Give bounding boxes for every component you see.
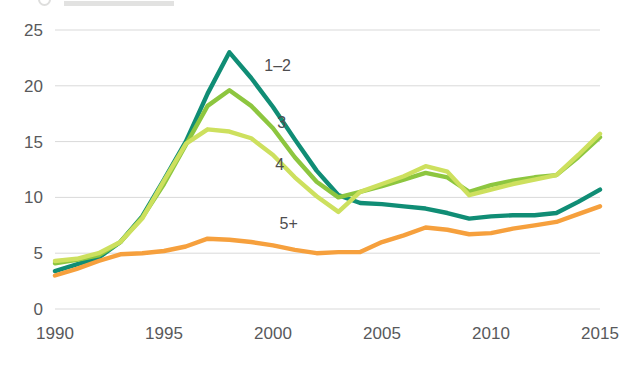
- chart-canvas: 0510152025 199019952000200520102015 1–23…: [0, 0, 623, 379]
- x-axis-tick-label: 2010: [472, 324, 510, 343]
- y-axis-tick-label: 25: [24, 21, 43, 40]
- x-axis-tick-label: 2005: [363, 324, 401, 343]
- x-axis-tick-label: 1995: [145, 324, 183, 343]
- x-axis-labels-group: 199019952000200520102015: [36, 324, 619, 343]
- y-axis-tick-label: 15: [24, 133, 43, 152]
- line-chart: 0510152025 199019952000200520102015 1–23…: [0, 0, 623, 379]
- x-axis-tick-label: 2015: [581, 324, 619, 343]
- y-axis-tick-label: 0: [34, 300, 43, 319]
- y-axis-tick-label: 20: [24, 77, 43, 96]
- gridlines-group: [55, 30, 600, 309]
- x-axis-tick-label: 2000: [254, 324, 292, 343]
- series-label-3: 3: [277, 114, 286, 131]
- series-label-1-2: 1–2: [264, 57, 291, 74]
- series-labels-group: 1–2345+: [264, 57, 298, 231]
- y-axis-tick-label: 10: [24, 188, 43, 207]
- series-label-4: 4: [275, 156, 284, 173]
- series-line-1-2: [55, 52, 600, 271]
- x-axis-tick-label: 1990: [36, 324, 74, 343]
- series-line-4: [55, 129, 600, 261]
- y-axis-labels-group: 0510152025: [24, 21, 43, 319]
- series-label-5plus: 5+: [280, 215, 298, 232]
- series-line-3: [55, 90, 600, 263]
- y-axis-tick-label: 5: [34, 244, 43, 263]
